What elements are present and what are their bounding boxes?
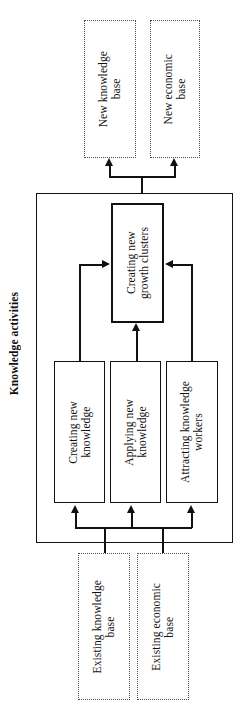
feed3-vertical: [191, 264, 193, 361]
output-box-label: New knowledge base: [97, 51, 123, 127]
activity-label-wrap: Attracting knowledge workers: [167, 362, 217, 502]
diagram-title: Knowledge activities: [8, 292, 20, 395]
arrowhead-feed3-to-central: [165, 260, 173, 268]
input-stem-3: [191, 513, 193, 528]
feed2-vertical: [136, 331, 138, 361]
input-riser-knowledge: [104, 527, 106, 554]
feed1-horizontal: [79, 264, 103, 266]
activity-box-label: Attracting knowledge workers: [179, 381, 205, 483]
central-box-label: Creating new growth clusters: [125, 227, 151, 299]
arrowhead-feed2-to-central: [132, 323, 140, 331]
arrowhead-feed1-to-central: [102, 260, 110, 268]
activity-box-applying-new-knowledge: Applying new knowledge: [110, 361, 161, 503]
input-riser-economic: [162, 527, 164, 554]
input-bus: [75, 527, 192, 529]
input-box-existing-economic-base: Existing economic base: [137, 553, 189, 700]
input-box-label: Existing economic base: [150, 583, 176, 671]
activity-label-wrap: Applying new knowledge: [111, 362, 160, 502]
input-stem-2: [131, 513, 133, 528]
output-label-wrap: New economic base: [151, 21, 199, 157]
activity-box-creating-new-knowledge: Creating new knowledge: [54, 361, 105, 503]
input-stem-1: [75, 513, 77, 528]
feed1-vertical: [79, 264, 81, 361]
central-label-wrap: Creating new growth clusters: [113, 205, 162, 321]
diagram-canvas: Knowledge activities New knowledge base …: [0, 0, 250, 708]
input-box-label: Existing knowledge base: [91, 580, 117, 673]
arrowhead-to-new-economic-base: [170, 158, 178, 166]
arrowhead-to-new-knowledge-base: [105, 158, 113, 166]
feed3-horizontal: [173, 264, 193, 266]
activity-box-attracting-knowledge-workers: Attracting knowledge workers: [166, 361, 218, 503]
input-box-existing-knowledge-base: Existing knowledge base: [78, 553, 130, 700]
input-label-wrap: Existing economic base: [138, 554, 188, 699]
central-box-creating-new-growth-clusters: Creating new growth clusters: [111, 203, 164, 323]
output-box-label: New economic base: [162, 54, 188, 125]
activity-label-wrap: Creating new knowledge: [55, 362, 104, 502]
arrowhead-to-attracting-knowledge-workers: [187, 505, 195, 513]
arrowhead-to-applying-new-knowledge: [127, 505, 135, 513]
output-box-new-knowledge-base: New knowledge base: [84, 20, 136, 158]
output-bus-feed: [141, 176, 143, 194]
input-label-wrap: Existing knowledge base: [79, 554, 129, 699]
output-box-new-economic-base: New economic base: [150, 20, 200, 158]
arrowhead-to-creating-new-knowledge: [71, 505, 79, 513]
activity-box-label: Applying new knowledge: [123, 399, 149, 466]
activity-box-label: Creating new knowledge: [67, 401, 93, 464]
output-label-wrap: New knowledge base: [85, 21, 135, 157]
